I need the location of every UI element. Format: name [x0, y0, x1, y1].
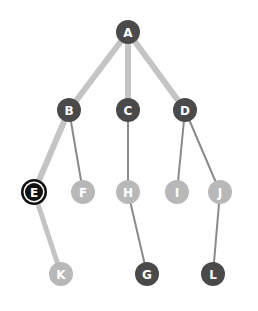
- tree-edges: [34, 32, 220, 274]
- edge-b-e: [34, 110, 69, 192]
- node-i[interactable]: I: [165, 180, 189, 204]
- node-label: K: [56, 268, 66, 282]
- node-label: A: [123, 26, 133, 40]
- edge-j-l: [213, 192, 220, 274]
- edge-a-b: [69, 32, 128, 110]
- node-label: B: [64, 104, 73, 118]
- edge-h-g: [128, 192, 147, 274]
- node-k[interactable]: K: [49, 262, 73, 286]
- node-d[interactable]: D: [173, 98, 197, 122]
- tree-diagram: ABCDEFHIJKGL: [0, 0, 258, 311]
- node-label: D: [180, 104, 190, 118]
- node-label: H: [123, 186, 133, 200]
- node-a[interactable]: A: [116, 20, 140, 44]
- edge-d-j: [185, 110, 220, 192]
- node-g[interactable]: G: [135, 262, 159, 286]
- node-label: E: [30, 186, 38, 200]
- node-label: F: [79, 186, 87, 200]
- node-label: J: [217, 186, 222, 200]
- node-c[interactable]: C: [116, 98, 140, 122]
- node-label: C: [124, 104, 133, 118]
- node-label: L: [209, 268, 217, 282]
- node-label: I: [175, 186, 179, 200]
- node-f[interactable]: F: [71, 180, 95, 204]
- node-h[interactable]: H: [116, 180, 140, 204]
- node-label: G: [142, 268, 152, 282]
- edge-a-d: [128, 32, 185, 110]
- edge-d-i: [177, 110, 185, 192]
- node-b[interactable]: B: [57, 98, 81, 122]
- node-e[interactable]: E: [21, 179, 47, 205]
- edge-b-f: [69, 110, 83, 192]
- node-j[interactable]: J: [208, 180, 232, 204]
- node-l[interactable]: L: [201, 262, 225, 286]
